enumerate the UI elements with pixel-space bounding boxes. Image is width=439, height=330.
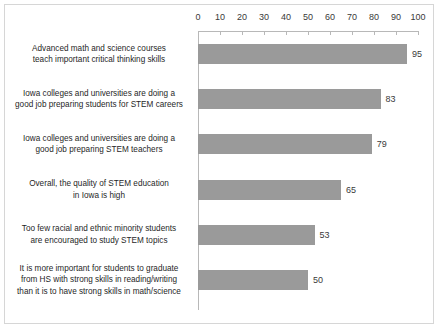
x-tick	[396, 31, 397, 35]
x-tick-label: 10	[215, 12, 225, 23]
category-label: It is more important for students to gra…	[6, 263, 192, 297]
bar-value-label: 50	[313, 270, 323, 290]
x-tick-label: 60	[325, 12, 335, 23]
x-tick	[374, 31, 375, 35]
bar-row: Iowa colleges and universities are doing…	[0, 89, 439, 109]
bar-row: Iowa colleges and universities are doing…	[0, 134, 439, 154]
y-axis-line	[198, 31, 199, 310]
x-tick-label: 30	[259, 12, 269, 23]
bar-row: Advanced math and science coursesteach i…	[0, 44, 439, 64]
bar-row: Too few racial and ethnic minority stude…	[0, 225, 439, 245]
x-tick-label: 0	[195, 12, 200, 23]
x-tick-label: 80	[369, 12, 379, 23]
x-tick-label: 20	[237, 12, 247, 23]
bar	[198, 89, 381, 109]
bar	[198, 134, 372, 154]
x-tick-label: 40	[281, 12, 291, 23]
x-tick	[418, 31, 419, 35]
x-tick	[352, 31, 353, 35]
x-tick	[286, 31, 287, 35]
x-tick-label: 50	[303, 12, 313, 23]
bar	[198, 270, 308, 290]
bar-value-label: 79	[377, 134, 387, 154]
x-tick	[330, 31, 331, 35]
category-label: Too few racial and ethnic minority stude…	[6, 223, 192, 246]
bar	[198, 225, 315, 245]
bar-value-label: 83	[386, 89, 396, 109]
bar-chart: 0102030405060708090100 Advanced math and…	[0, 0, 439, 330]
x-tick	[264, 31, 265, 35]
bar-row: Overall, the quality of STEM educationin…	[0, 180, 439, 200]
bar-value-label: 65	[346, 180, 356, 200]
x-tick	[242, 31, 243, 35]
x-tick	[220, 31, 221, 35]
x-tick-label: 70	[347, 12, 357, 23]
category-label: Advanced math and science coursesteach i…	[6, 43, 192, 66]
x-tick-label: 90	[391, 12, 401, 23]
category-label: Iowa colleges and universities are doing…	[6, 133, 192, 156]
bar-value-label: 95	[412, 44, 422, 64]
bar	[198, 44, 407, 64]
bar-row: It is more important for students to gra…	[0, 270, 439, 290]
x-tick-label: 100	[410, 12, 425, 23]
category-label: Overall, the quality of STEM educationin…	[6, 178, 192, 201]
x-tick	[308, 31, 309, 35]
category-label: Iowa colleges and universities are doing…	[6, 88, 192, 111]
bar-value-label: 53	[320, 225, 330, 245]
bar	[198, 180, 341, 200]
x-tick	[198, 31, 199, 35]
